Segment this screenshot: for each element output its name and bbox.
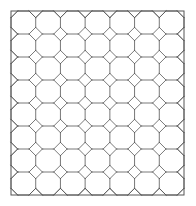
tiling-figure — [0, 0, 196, 206]
tiling-pattern-canvas — [0, 0, 196, 206]
